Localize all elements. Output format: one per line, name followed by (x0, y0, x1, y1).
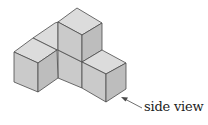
arrow-head-icon (121, 97, 128, 102)
side-view-arrow (121, 97, 142, 108)
cube-right (82, 50, 126, 102)
side-view-label: side view (144, 99, 204, 114)
